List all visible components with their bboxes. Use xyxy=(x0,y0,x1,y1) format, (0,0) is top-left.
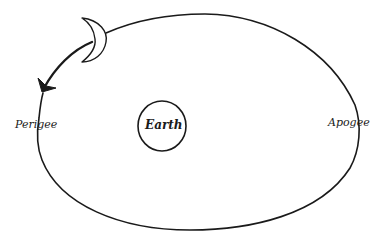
moon-crescent-icon xyxy=(82,18,106,62)
orbit-ellipse xyxy=(37,14,359,230)
apogee-label: Apogee xyxy=(328,117,370,128)
earth-label: Earth xyxy=(145,119,183,131)
motion-arrow-shaft xyxy=(44,42,92,88)
perigee-label: Perigee xyxy=(15,119,57,130)
